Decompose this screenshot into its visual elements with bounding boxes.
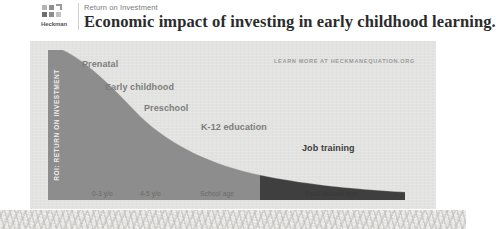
header-kicker: Return on Investment [84,3,158,12]
x-tick-post-school-age: Post-school age [305,190,357,197]
x-axis-labels: 0-3 y/o 4-5 y/o School age Post-school a… [30,190,436,204]
page-title: Economic impact of investing in early ch… [84,12,496,31]
bottom-texture-strip [0,210,466,229]
chart-panel: ROI: RETURN ON INVESTMENT LEARN MORE AT … [30,41,436,209]
squares-grid-logo-icon [40,4,66,19]
attribution-text: LEARN MORE AT HECKMANEQUATION.ORG [274,58,415,64]
x-tick-4-5-yo: 4-5 y/o [140,190,161,197]
curve-label-preschool: Preschool [144,103,188,113]
header-divider [78,3,79,30]
heckman-logo: Heckman [32,4,76,30]
x-tick-school-age: School age [200,190,234,197]
curve-label-prenatal: Prenatal [82,59,118,69]
y-axis-label: ROI: RETURN ON INVESTMENT [52,69,59,181]
roi-axis-bar: ROI: RETURN ON INVESTMENT [48,50,63,200]
bottom-texture [0,210,466,229]
logo-wordmark: Heckman [32,20,76,28]
curve-label-job-training: Job training [302,143,355,153]
curve-label-k12-education: K-12 education [201,122,267,132]
x-tick-0-3-yo: 0-3 y/o [92,190,113,197]
page-header: Heckman Return on Investment Economic im… [0,0,466,38]
curve-label-early-childhood: Early childhood [105,82,174,92]
